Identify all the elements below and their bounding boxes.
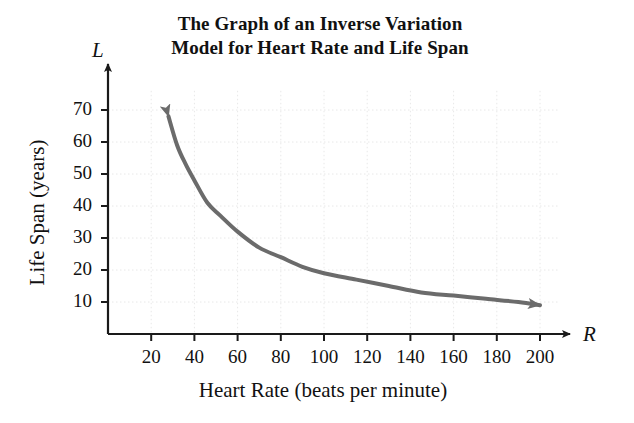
data-curve-inverse-variation — [168, 116, 540, 305]
x-axis-tick-label: 180 — [474, 346, 520, 368]
y-axis-tick-label: 50 — [52, 162, 92, 184]
y-axis-tick-label: 10 — [52, 290, 92, 312]
chart-figure: The Graph of an Inverse Variation Model … — [0, 0, 634, 423]
y-axis-tick-label: 30 — [52, 226, 92, 248]
x-axis-tick-label: 20 — [128, 346, 174, 368]
y-axis-tick-label: 20 — [52, 258, 92, 280]
x-axis-tick-label: 80 — [258, 346, 304, 368]
y-axis-tick-label: 70 — [52, 98, 92, 120]
x-axis-tick-label: 200 — [517, 346, 563, 368]
x-axis-tick-label: 160 — [431, 346, 477, 368]
x-axis-tick-label: 120 — [344, 346, 390, 368]
x-axis-tick-label: 100 — [301, 346, 347, 368]
x-axis-tick-label: 60 — [215, 346, 261, 368]
x-axis-tick-label: 40 — [171, 346, 217, 368]
x-axis-tick-label: 140 — [387, 346, 433, 368]
y-axis-tick-label: 40 — [52, 194, 92, 216]
y-axis-tick-label: 60 — [52, 130, 92, 152]
